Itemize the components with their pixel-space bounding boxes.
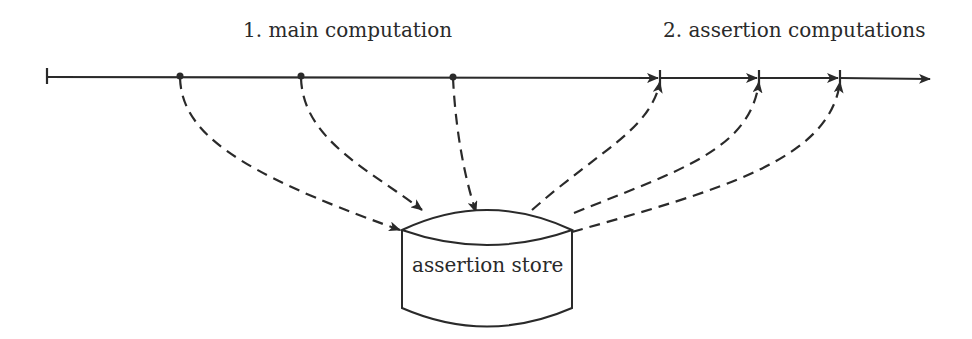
timeline-segment-main [47,77,658,78]
phase-label-main: 1. main computation [243,18,452,42]
edges-to-store [180,78,476,230]
edges-from-store [532,82,840,232]
phase-label-assertions: 2. assertion computations [663,18,925,42]
edge-main-2-to-store [301,78,422,210]
timeline-arrow-end [840,78,930,79]
store-label: assertion store [412,253,563,277]
edge-store-to-assertion-2 [574,82,759,213]
edge-main-3-to-store [453,78,476,212]
diagram-canvas [0,0,972,339]
edge-store-to-assertion-3 [572,82,840,232]
edge-main-1-to-store [180,78,400,230]
edge-store-to-assertion-1 [532,82,660,210]
computation-diagram: 1. main computation 2. assertion computa… [0,0,972,339]
